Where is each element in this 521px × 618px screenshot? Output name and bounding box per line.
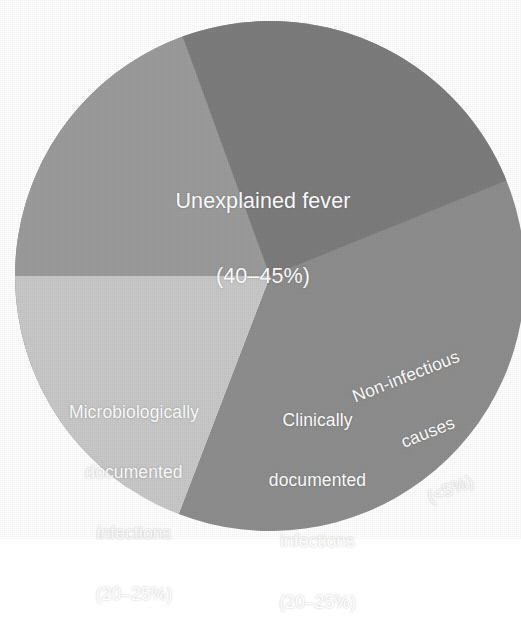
slice-label-line: (20–25%): [250, 592, 385, 612]
pie-slice-group: [15, 21, 521, 531]
slice-label-line: (20–25%): [26, 584, 242, 604]
